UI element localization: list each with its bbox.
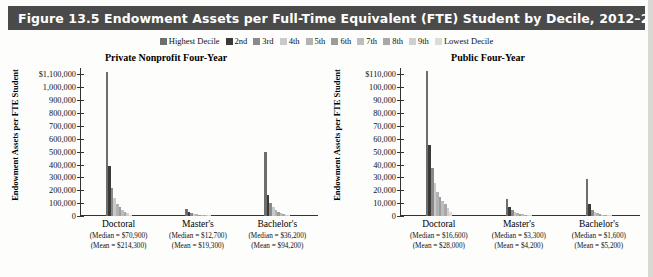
legend-label: 6th	[340, 36, 351, 46]
y-axis-tick-label: 30,000	[373, 173, 396, 182]
legend-swatch-icon	[253, 38, 260, 45]
group-median-annotation: (Median = $1,600)	[551, 232, 647, 240]
legend-item: 4th	[280, 36, 300, 46]
legend-label: 7th	[366, 36, 377, 46]
y-axis-tick-label: 400,000	[49, 160, 76, 169]
y-axis-tick	[397, 113, 404, 114]
y-axis-tick-label: 1,000,000	[43, 83, 76, 92]
x-axis-group-label: Bachelor's	[232, 219, 322, 229]
legend-swatch-icon	[160, 38, 167, 45]
bar-bachelors-9	[288, 215, 291, 216]
plot-area: $110,000100,00090,00080,00070,00060,0005…	[400, 68, 640, 216]
y-axis-tick	[397, 139, 404, 140]
page-edge-shadow	[648, 0, 653, 277]
legend-swatch-icon	[435, 38, 442, 45]
bar-masters-9	[208, 215, 211, 216]
y-axis-tick-label: 900,000	[49, 96, 76, 105]
y-axis-tick	[397, 126, 404, 127]
legend-swatch-icon	[280, 38, 287, 45]
y-axis-tick	[77, 87, 84, 88]
legend-label: 4th	[289, 36, 300, 46]
bar-doctoral-9	[449, 212, 452, 216]
legend-item: 7th	[357, 36, 377, 46]
y-axis-tick-label: 200,000	[49, 186, 76, 195]
y-axis-tick-label: 90,000	[373, 96, 396, 105]
y-axis-tick-label: 300,000	[49, 173, 76, 182]
legend-swatch-icon	[306, 38, 313, 45]
y-axis-tick	[77, 216, 84, 217]
legend-label: 3rd	[262, 36, 273, 46]
group-median-annotation: (Median = $36,200)	[229, 232, 325, 240]
legend-label: 2nd	[235, 36, 248, 46]
group-mean-annotation: (Mean = $5,200)	[551, 242, 647, 250]
y-axis-tick	[77, 74, 84, 75]
y-axis-tick	[397, 100, 404, 101]
y-axis-label-text: Endowment Assets per FTE Student	[332, 69, 342, 201]
y-axis-tick-label: 50,000	[373, 147, 396, 156]
bar-bachelors-9	[609, 215, 612, 216]
y-axis-tick	[77, 113, 84, 114]
plot-area: $1,100,0001,000,000900,000800,000700,000…	[80, 68, 318, 216]
legend-swatch-icon	[383, 38, 390, 45]
x-axis-group-label: Master's	[474, 219, 564, 229]
legend-swatch-icon	[409, 38, 416, 45]
y-axis-tick	[77, 100, 84, 101]
chart-legend: Highest Decile2nd3rd4th5th6th7th8th9thLo…	[8, 34, 645, 48]
legend-label: Lowest Decile	[444, 36, 493, 46]
legend-swatch-icon	[226, 38, 233, 45]
y-axis-tick-label: 800,000	[49, 109, 76, 118]
y-axis-tick-label: 700,000	[49, 121, 76, 130]
bar-doctoral-9	[129, 215, 132, 216]
y-axis-tick-label: 20,000	[373, 186, 396, 195]
y-axis-tick	[77, 177, 84, 178]
legend-item: 6th	[331, 36, 351, 46]
y-axis-tick-label: 100,000	[369, 83, 396, 92]
y-axis-tick	[397, 203, 404, 204]
legend-item: 5th	[306, 36, 326, 46]
y-axis-tick-label: 100,000	[49, 199, 76, 208]
y-axis-tick	[77, 190, 84, 191]
legend-swatch-icon	[331, 38, 338, 45]
bar-masters-9	[529, 215, 532, 216]
y-axis-tick	[397, 152, 404, 153]
y-axis-tick-label: 500,000	[49, 147, 76, 156]
y-axis-label: Endowment Assets per FTE Student	[330, 60, 344, 210]
y-axis-line	[400, 68, 401, 216]
y-axis-tick	[397, 216, 404, 217]
x-axis-group-label: Master's	[153, 219, 243, 229]
y-axis-tick-label: $110,000	[365, 70, 396, 79]
x-axis-group-label: Doctoral	[74, 219, 164, 229]
y-axis-tick-label: $1,100,000	[39, 70, 76, 79]
chart-panel-private-nonprofit: Private Nonprofit Four-Year Endowment As…	[6, 52, 326, 274]
y-axis-tick-label: 80,000	[373, 109, 396, 118]
panel-title: Public Four-Year	[328, 52, 648, 63]
y-axis-tick	[77, 152, 84, 153]
figure-title: Figure 13.5 Endowment Assets per Full-Ti…	[8, 11, 653, 26]
legend-label: 8th	[392, 36, 403, 46]
y-axis-tick	[397, 177, 404, 178]
group-mean-annotation: (Mean = $94,200)	[229, 242, 325, 250]
panel-title: Private Nonprofit Four-Year	[6, 52, 326, 63]
y-axis-label-text: Endowment Assets per FTE Student	[10, 69, 20, 201]
legend-label: Highest Decile	[169, 36, 220, 46]
legend-item: 9th	[409, 36, 429, 46]
y-axis-tick	[77, 139, 84, 140]
x-axis-group-label: Bachelor's	[554, 219, 644, 229]
y-axis-tick	[77, 126, 84, 127]
y-axis-tick	[397, 190, 404, 191]
legend-item: 8th	[383, 36, 403, 46]
y-axis-tick	[77, 203, 84, 204]
y-axis-tick-label: 40,000	[373, 160, 396, 169]
y-axis-tick-label: 10,000	[373, 199, 396, 208]
legend-item: Highest Decile	[160, 36, 220, 46]
chart-panel-public-four-year: Public Four-Year Endowment Assets per FT…	[328, 52, 648, 274]
y-axis-label: Endowment Assets per FTE Student	[8, 60, 22, 210]
y-axis-tick-label: 600,000	[49, 134, 76, 143]
y-axis-tick	[77, 165, 84, 166]
figure-container: Figure 13.5 Endowment Assets per Full-Ti…	[0, 0, 653, 277]
y-axis-tick	[397, 74, 404, 75]
legend-swatch-icon	[357, 38, 364, 45]
legend-label: 5th	[315, 36, 326, 46]
y-axis-tick-label: 70,000	[373, 121, 396, 130]
legend-item: 3rd	[253, 36, 273, 46]
